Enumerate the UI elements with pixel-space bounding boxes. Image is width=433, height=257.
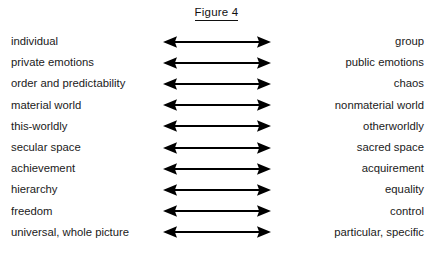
right-pole-label: nonmaterial world [273, 99, 433, 112]
continuum-row: secular space sacred space [0, 137, 433, 158]
double-headed-arrow-icon [160, 55, 273, 71]
left-pole-label: this-worldly [0, 120, 160, 133]
left-pole-label: individual [0, 35, 160, 48]
double-headed-arrow-icon [160, 182, 273, 198]
double-headed-arrow-icon [160, 224, 273, 240]
continuum-row-list: individual group private emotions public… [0, 31, 433, 243]
left-pole-label: universal, whole picture [0, 226, 160, 239]
double-headed-arrow-icon [160, 140, 273, 156]
continuum-row: hierarchy equality [0, 179, 433, 200]
double-headed-arrow-icon [160, 76, 273, 92]
left-pole-label: achievement [0, 162, 160, 175]
continuum-row: this-worldly otherworldly [0, 116, 433, 137]
right-pole-label: group [273, 35, 433, 48]
left-pole-label: order and predictability [0, 77, 160, 90]
continuum-row: universal, whole picture particular, spe… [0, 222, 433, 243]
double-headed-arrow-icon [160, 34, 273, 50]
right-pole-label: equality [273, 183, 433, 196]
right-pole-label: otherworldly [273, 120, 433, 133]
continuum-row: freedom control [0, 201, 433, 222]
double-headed-arrow-icon [160, 118, 273, 134]
left-pole-label: secular space [0, 141, 160, 154]
double-headed-arrow-icon [160, 161, 273, 177]
right-pole-label: acquirement [273, 162, 433, 175]
continuum-row: order and predictability chaos [0, 73, 433, 94]
right-pole-label: public emotions [273, 56, 433, 69]
right-pole-label: particular, specific [273, 226, 433, 239]
continuum-row: achievement acquirement [0, 158, 433, 179]
left-pole-label: private emotions [0, 56, 160, 69]
continuum-row: individual group [0, 31, 433, 52]
figure-container: Figure 4 individual group private emotio… [0, 0, 433, 257]
figure-title-text: Figure 4 [195, 5, 239, 21]
left-pole-label: hierarchy [0, 183, 160, 196]
continuum-row: private emotions public emotions [0, 52, 433, 73]
left-pole-label: freedom [0, 205, 160, 218]
continuum-row: material world nonmaterial world [0, 95, 433, 116]
figure-title: Figure 4 [0, 5, 433, 21]
right-pole-label: sacred space [273, 141, 433, 154]
double-headed-arrow-icon [160, 203, 273, 219]
right-pole-label: chaos [273, 77, 433, 90]
right-pole-label: control [273, 205, 433, 218]
left-pole-label: material world [0, 99, 160, 112]
double-headed-arrow-icon [160, 97, 273, 113]
